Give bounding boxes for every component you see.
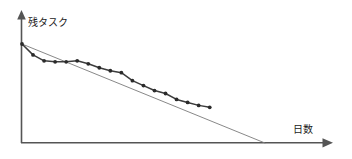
data-point-marker: [186, 101, 190, 105]
data-point-marker: [97, 66, 101, 70]
ideal-burndown-line: [22, 44, 265, 143]
data-point-marker: [131, 79, 135, 83]
actual-burndown-line: [22, 44, 210, 107]
data-point-marker: [42, 59, 46, 63]
data-point-marker: [153, 89, 157, 93]
actual-data-point-markers: [20, 42, 212, 109]
data-point-marker: [208, 105, 212, 109]
y-axis-arrowhead: [17, 10, 26, 20]
data-point-marker: [175, 98, 179, 102]
x-axis-arrowhead: [323, 138, 334, 147]
data-point-marker: [86, 62, 90, 66]
ideal-line-series: [22, 44, 265, 143]
data-point-marker: [108, 69, 112, 73]
burndown-chart: 残タスク 日数: [0, 0, 352, 159]
data-point-marker: [164, 92, 168, 96]
data-point-marker: [142, 84, 146, 88]
data-point-marker: [53, 60, 57, 64]
data-point-marker: [64, 60, 68, 64]
data-point-marker: [197, 103, 201, 107]
actual-line-series: [20, 42, 212, 109]
data-point-marker: [75, 59, 79, 63]
chart-canvas: 残タスク 日数: [0, 0, 352, 159]
data-point-marker: [31, 53, 35, 57]
data-point-marker: [20, 42, 24, 46]
y-axis-label: 残タスク: [28, 16, 68, 28]
data-point-marker: [119, 71, 123, 75]
axes-group: [17, 10, 333, 147]
x-axis-label: 日数: [293, 123, 313, 135]
